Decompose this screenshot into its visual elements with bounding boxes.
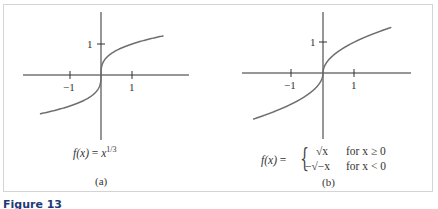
formula-a: f(x) = x1/3 bbox=[73, 146, 117, 159]
x-tick-label-1-b: 1 bbox=[351, 80, 357, 91]
case1-expr: √x bbox=[316, 145, 328, 157]
formula-a-lhs: f(x) bbox=[73, 147, 89, 159]
formula-a-exp: 1/3 bbox=[106, 145, 116, 154]
y-tick-label-1-a: 1 bbox=[87, 39, 93, 50]
formula-b-case1-expr: √x bbox=[316, 146, 328, 158]
x-tick-label-neg1-b: −1 bbox=[284, 80, 296, 91]
figure-label: Figure 13 bbox=[3, 199, 62, 209]
case2-expr: −√−x bbox=[305, 160, 330, 172]
formula-b-case2-cond: for x < 0 bbox=[346, 161, 386, 173]
y-tick-label-1-b: 1 bbox=[310, 37, 316, 48]
formula-b-eq: = bbox=[280, 154, 287, 166]
formula-b-lhs-group: f(x) = bbox=[261, 155, 286, 167]
plot-a bbox=[0, 0, 438, 209]
caption-a: (a) bbox=[95, 176, 107, 187]
x-tick-label-neg1-a: −1 bbox=[63, 82, 75, 93]
formula-a-eq: = bbox=[92, 147, 99, 159]
caption-b: (b) bbox=[322, 177, 335, 188]
formula-b-case2-expr: −√−x bbox=[305, 161, 330, 173]
case2-cond: for x < 0 bbox=[346, 160, 386, 172]
formula-b-case1-cond: for x ≥ 0 bbox=[346, 146, 386, 158]
x-tick-label-1-a: 1 bbox=[129, 82, 135, 93]
case1-cond: for x ≥ 0 bbox=[346, 145, 386, 157]
formula-b-lhs: f(x) bbox=[261, 154, 277, 166]
